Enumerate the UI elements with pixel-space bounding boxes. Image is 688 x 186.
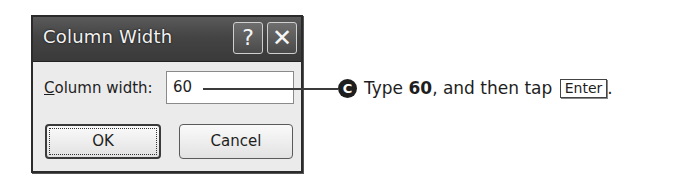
step-badge-icon: C xyxy=(338,79,357,98)
column-width-label: Column width: xyxy=(44,79,153,97)
column-width-dialog: Column Width ? ✕ Column width: 60 OK Can… xyxy=(31,15,303,173)
instruction-prefix: Type xyxy=(364,78,408,98)
instruction-middle: , and then tap xyxy=(432,78,558,98)
question-mark-icon: ? xyxy=(242,25,254,50)
cancel-button[interactable]: Cancel xyxy=(179,124,293,159)
callout-instruction: Type 60, and then tap Enter. xyxy=(364,78,613,98)
callout-leader-line xyxy=(203,88,338,90)
label-text: olumn width: xyxy=(54,79,152,97)
dialog-title: Column Width xyxy=(43,26,172,47)
enter-key-cap: Enter xyxy=(560,79,608,98)
ok-button[interactable]: OK xyxy=(45,124,161,159)
label-mnemonic: C xyxy=(44,79,54,97)
instruction-value: 60 xyxy=(408,78,432,98)
title-bar: Column Width ? ✕ xyxy=(33,17,301,62)
close-button[interactable]: ✕ xyxy=(267,22,297,54)
help-button[interactable]: ? xyxy=(233,22,263,54)
instruction-suffix: . xyxy=(607,78,612,98)
close-icon: ✕ xyxy=(272,24,292,52)
